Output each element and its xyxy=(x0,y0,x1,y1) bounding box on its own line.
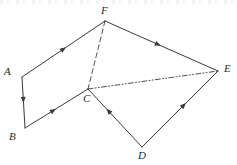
figure-canvas xyxy=(0,0,237,165)
edge-ce xyxy=(88,71,218,89)
arrowhead-bc xyxy=(49,109,56,114)
edge-dc xyxy=(88,89,142,147)
vertex-label-f: F xyxy=(101,5,108,16)
arrowhead-ab xyxy=(21,97,26,103)
edge-layer xyxy=(22,21,218,147)
arrowhead-af xyxy=(60,47,67,53)
vertex-label-b: B xyxy=(9,131,16,142)
edge-bc xyxy=(25,89,88,128)
arrowhead-layer xyxy=(21,41,186,115)
edge-de xyxy=(142,71,218,147)
vertex-label-d: D xyxy=(138,150,146,161)
vertex-label-e: E xyxy=(224,63,231,74)
vertex-label-a: A xyxy=(4,66,11,77)
vertex-label-c: C xyxy=(83,93,90,104)
edge-fe xyxy=(105,21,218,71)
arrowhead-fe xyxy=(154,41,161,46)
geometry-figure: ABCDEF xyxy=(0,0,237,165)
